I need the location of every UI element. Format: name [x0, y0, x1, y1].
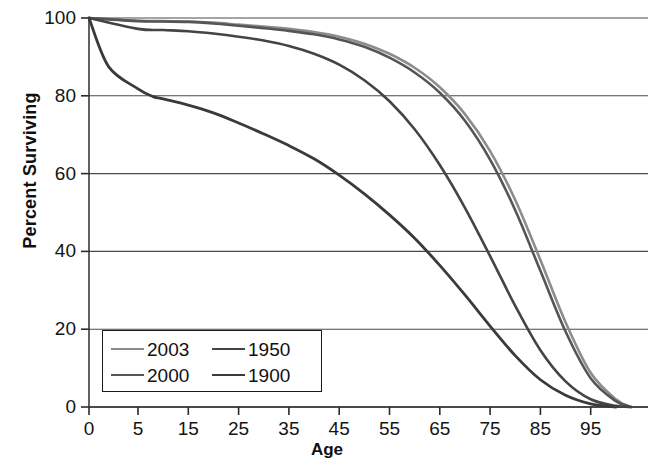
plot-canvas [0, 0, 654, 466]
legend-item-2000: 2000 [111, 362, 212, 388]
legend: 2003 1950 2000 1900 [102, 330, 322, 392]
legend-swatch-2003 [111, 348, 144, 351]
legend-label-2003: 2003 [147, 340, 189, 359]
survival-curve-chart: Percent Surviving Age 020406080100 05152… [0, 0, 654, 466]
legend-swatch-1900 [212, 374, 245, 377]
legend-label-2000: 2000 [147, 366, 189, 385]
legend-label-1900: 1900 [248, 366, 290, 385]
legend-item-2003: 2003 [111, 336, 212, 362]
legend-item-1950: 1950 [212, 336, 315, 362]
legend-item-1900: 1900 [212, 362, 315, 388]
legend-swatch-1950 [212, 348, 245, 351]
legend-label-1950: 1950 [248, 340, 290, 359]
legend-swatch-2000 [111, 374, 144, 377]
